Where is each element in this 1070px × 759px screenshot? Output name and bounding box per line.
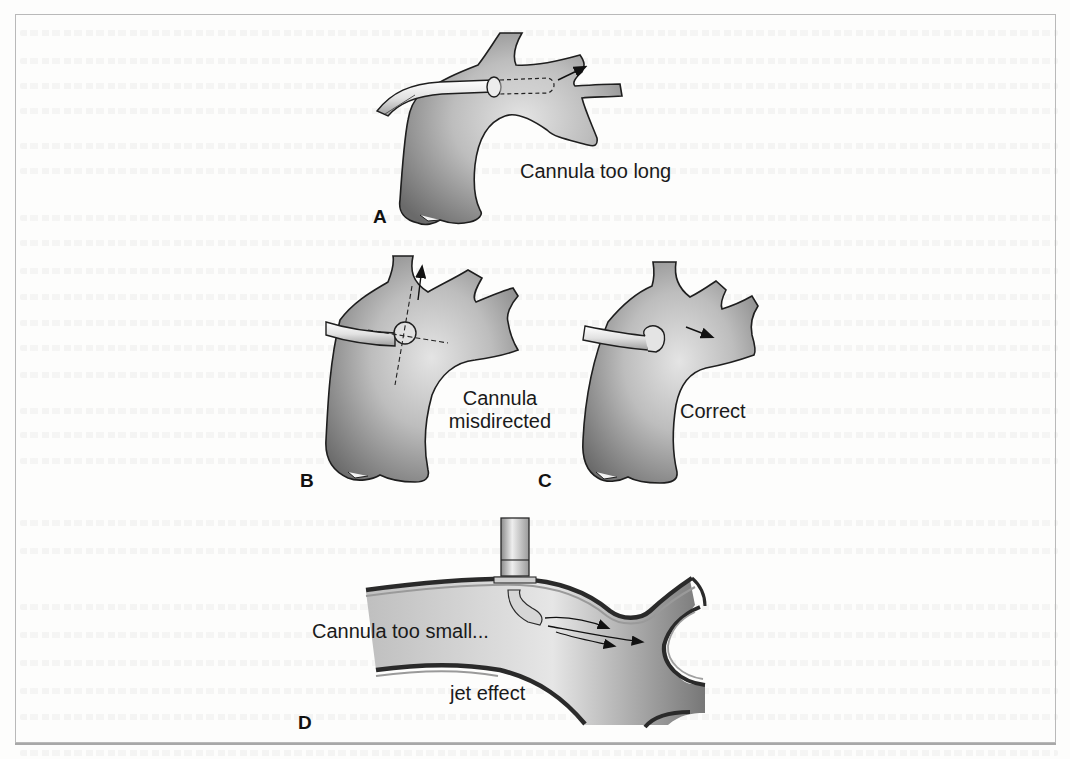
aortic-cannulation-illustration (0, 0, 1070, 759)
panel-c-label: Correct (680, 400, 746, 423)
panel-b-letter: B (300, 470, 314, 492)
panel-b-label: Cannula misdirected (440, 387, 560, 433)
panel-b-label-line2: misdirected (440, 410, 560, 433)
panel-b-aorta (326, 256, 518, 482)
panel-d-sublabel: jet effect (450, 682, 525, 705)
panel-c-aorta (583, 262, 758, 483)
panel-b-label-line1: Cannula (440, 387, 560, 410)
panel-d-label: Cannula too small... (312, 620, 489, 643)
panel-c-letter: C (538, 470, 552, 492)
scanned-page: Cannula too long A Cannula misdirected B… (0, 0, 1070, 759)
panel-a-aorta (377, 33, 622, 224)
panel-a-label: Cannula too long (520, 160, 671, 183)
panel-d-letter: D (298, 712, 312, 734)
panel-a-letter: A (373, 206, 387, 228)
